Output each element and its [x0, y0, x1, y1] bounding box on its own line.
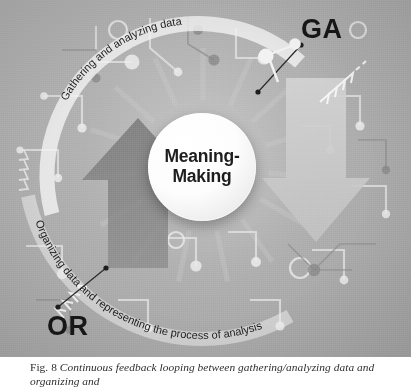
caption-figure-number: Fig. 8 — [30, 361, 57, 373]
caption-text: Continuous feedback looping between gath… — [30, 361, 374, 387]
figure-caption: Fig. 8 Continuous feedback looping betwe… — [30, 360, 408, 389]
figure-image: Gathering and analyzing data Organizing … — [0, 0, 411, 357]
vignette-overlay — [0, 0, 411, 357]
